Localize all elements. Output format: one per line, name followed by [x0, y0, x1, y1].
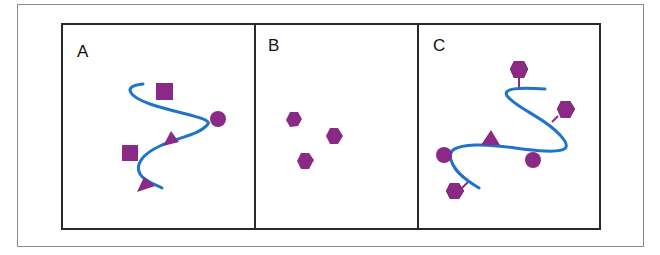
diagram-art: [0, 0, 660, 255]
triangle-glyph: [481, 130, 500, 145]
triangle-glyph: [137, 177, 155, 192]
hexagon-glyph: [557, 101, 575, 118]
panel-a-art: [122, 83, 226, 192]
circle-glyph: [525, 152, 541, 168]
circle-glyph: [210, 111, 226, 127]
strand-c: [450, 88, 566, 188]
hexagon-glyph: [510, 61, 528, 78]
stalk: [462, 182, 468, 188]
panel-c-art: [436, 61, 575, 199]
stalk: [552, 116, 558, 122]
square-glyph: [122, 145, 138, 161]
square-glyph: [156, 83, 173, 100]
hexagon-glyph: [446, 183, 464, 199]
hexagon-glyph: [326, 128, 343, 144]
panel-b-art: [286, 112, 343, 169]
hexagon-glyph: [297, 153, 314, 169]
hexagon-glyph: [286, 112, 302, 127]
circle-glyph: [436, 147, 452, 163]
